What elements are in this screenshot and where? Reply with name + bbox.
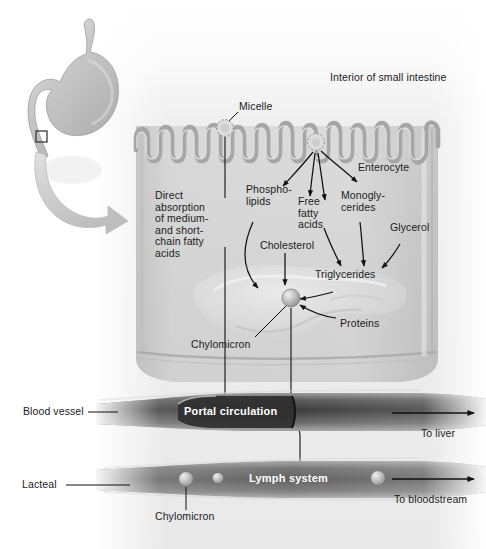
micelle-label: Micelle	[239, 101, 272, 113]
glycerol-label: Glycerol	[390, 222, 429, 234]
free-fatty-acids-label: Free fatty acids	[298, 196, 323, 231]
phospholipids-label: Phospho- lipids	[246, 184, 292, 207]
lacteal-label: Lacteal	[22, 479, 57, 491]
to-bloodstream-label: To bloodstream	[394, 494, 467, 506]
enterocyte-label: Enterocyte	[358, 162, 409, 174]
blood-vessel	[96, 390, 486, 431]
lymph-system-label: Lymph system	[249, 473, 328, 485]
figure-canvas: Interior of small intestine Micelle Ente…	[0, 0, 486, 549]
chylomicron-sphere-lacteal-2	[212, 472, 223, 483]
direct-absorption-label: Direct absorption of medium- and short- …	[155, 190, 209, 259]
micelle-outer	[217, 120, 234, 137]
chylomicron-sphere-cell	[282, 289, 300, 307]
chylomicron-cell-label: Chylomicron	[191, 339, 250, 351]
triglycerides-label: Triglycerides	[315, 269, 375, 281]
interior-label: Interior of small intestine	[330, 72, 447, 84]
proteins-label: Proteins	[340, 318, 379, 330]
chylomicron-sphere-lacteal-3	[371, 471, 386, 486]
cholesterol-label: Cholesterol	[260, 240, 314, 252]
blood-vessel-label: Blood vessel	[23, 406, 84, 418]
chylomicron-lacteal-label: Chylomicron	[155, 511, 214, 523]
micelle-absorbed	[308, 134, 325, 151]
monoglycerides-label: Monogly- cerides	[341, 190, 385, 213]
portal-circulation-label: Portal circulation	[184, 406, 277, 418]
to-liver-label: To liver	[421, 428, 455, 440]
chylomicron-sphere-lacteal-1	[179, 472, 194, 487]
